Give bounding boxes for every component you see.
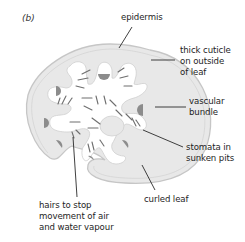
label-cuticle-line3: of leaf <box>180 67 206 78</box>
label-epidermis: epidermis <box>121 12 163 23</box>
label-curled-leaf: curled leaf <box>144 194 188 205</box>
label-cuticle-line2: on outside <box>180 56 224 67</box>
leaf-cross-section <box>0 0 245 242</box>
label-hairs-line1: hairs to stop <box>39 200 91 211</box>
label-vascular-line2: bundle <box>189 107 218 118</box>
label-stomata-line1: stomata in <box>186 142 231 153</box>
diagram-canvas: (b) epidermis thick cuticle on outside o… <box>0 0 245 242</box>
panel-label: (b) <box>22 13 35 23</box>
central-tissue-mass <box>100 116 124 136</box>
label-cuticle-line1: thick cuticle <box>180 45 231 56</box>
label-stomata-line2: sunken pits <box>186 153 234 164</box>
label-hairs-line2: movement of air <box>39 211 109 222</box>
label-vascular-line1: vascular <box>189 96 224 107</box>
label-hairs-line3: and water vapour <box>39 222 114 233</box>
